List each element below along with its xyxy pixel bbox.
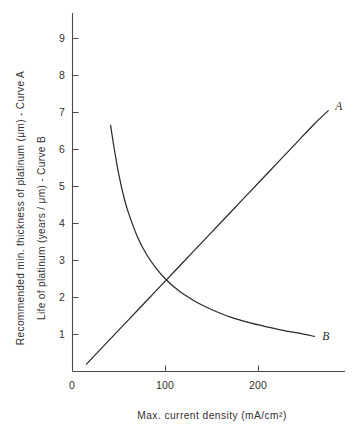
chart-figure: 1 2 3 4 5 6 7 8 9 0 100 200 A B Max. c — [0, 0, 355, 434]
y-tick-label: 2 — [59, 291, 65, 303]
y-tick-label: 8 — [59, 69, 65, 81]
x-tick-label: 0 — [69, 379, 75, 391]
y-axis-ticks — [73, 39, 79, 335]
y-axis-title-secondary: Life of platinum (years / μm) - Curve B — [36, 136, 47, 320]
y-tick-label: 5 — [59, 180, 65, 192]
plot-area: 1 2 3 4 5 6 7 8 9 0 100 200 A B Max. c — [0, 0, 355, 434]
y-tick-label: 1 — [59, 328, 65, 340]
x-axis-title: Max. current density (mA/cm²) — [137, 410, 286, 421]
y-tick-label: 3 — [59, 254, 65, 266]
y-axis-tick-labels: 1 2 3 4 5 6 7 8 9 — [59, 32, 65, 340]
curve-label-a: A — [334, 100, 343, 112]
y-tick-label: 9 — [59, 32, 65, 44]
x-tick-label: 200 — [249, 379, 267, 391]
x-axis-ticks — [166, 366, 259, 372]
y-tick-label: 4 — [59, 217, 65, 229]
series-line-a — [86, 111, 328, 364]
y-tick-label: 7 — [59, 106, 65, 118]
y-tick-label: 6 — [59, 143, 65, 155]
x-tick-label: 100 — [156, 379, 174, 391]
curve-label-b: B — [322, 330, 329, 342]
x-axis-tick-labels: 0 100 200 — [69, 379, 267, 391]
y-axis-title-primary: Recommended min. thickness of platinum (… — [15, 71, 26, 345]
